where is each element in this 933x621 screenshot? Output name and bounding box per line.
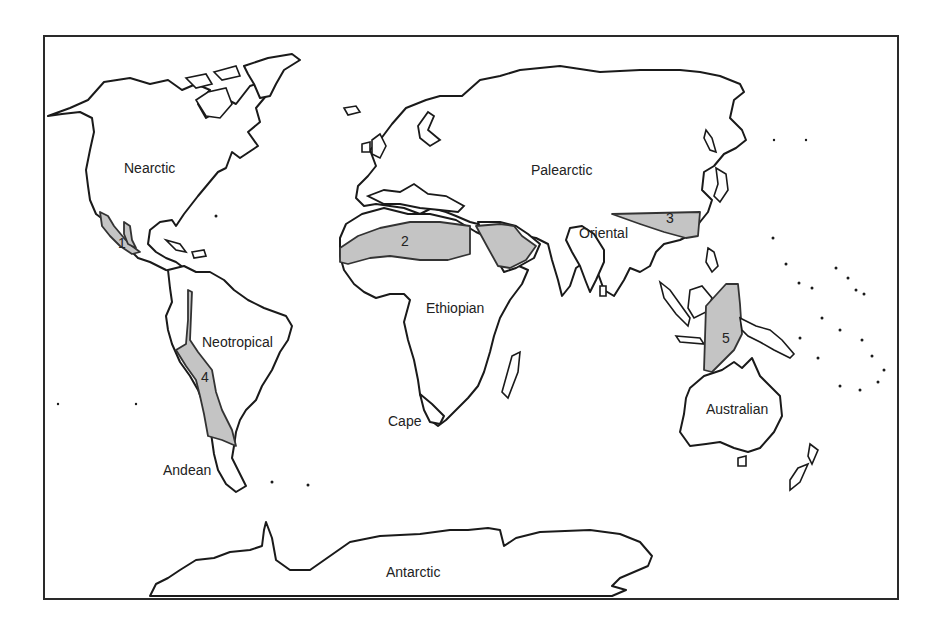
island-iceland bbox=[344, 106, 360, 115]
island-java bbox=[676, 336, 704, 344]
region-label-australian: Australian bbox=[706, 402, 768, 416]
region-label-nearctic: Nearctic bbox=[124, 161, 175, 175]
region-label-andean: Andean bbox=[163, 463, 211, 477]
region-label-antarctic: Antarctic bbox=[386, 565, 440, 579]
zone-number-1: 1 bbox=[118, 236, 126, 250]
island-tasmania bbox=[738, 456, 746, 466]
region-label-ethiopian: Ethiopian bbox=[426, 301, 484, 315]
zone-number-2: 2 bbox=[401, 234, 409, 248]
landmass-antarctica bbox=[150, 522, 652, 596]
region-label-palearctic: Palearctic bbox=[531, 163, 592, 177]
island-ireland bbox=[362, 142, 370, 152]
region-label-oriental: Oriental bbox=[579, 226, 628, 240]
zone-number-3: 3 bbox=[666, 211, 674, 225]
island-new-zealand-south bbox=[790, 464, 808, 490]
region-label-neotropical: Neotropical bbox=[202, 335, 273, 349]
island-arctic-2 bbox=[214, 66, 240, 80]
island-hispaniola bbox=[192, 250, 206, 258]
island-sri-lanka bbox=[600, 286, 606, 296]
island-philippines bbox=[706, 248, 718, 272]
zone-number-5: 5 bbox=[722, 331, 730, 345]
zone-number-4: 4 bbox=[201, 370, 209, 384]
island-new-guinea bbox=[740, 318, 794, 358]
island-sumatra bbox=[660, 282, 690, 326]
landmass-south-america bbox=[166, 266, 292, 492]
island-new-zealand-north bbox=[808, 444, 818, 464]
region-label-cape: Cape bbox=[388, 414, 421, 428]
island-japan bbox=[714, 168, 728, 202]
island-madagascar bbox=[502, 352, 520, 398]
island-cuba bbox=[166, 240, 186, 252]
